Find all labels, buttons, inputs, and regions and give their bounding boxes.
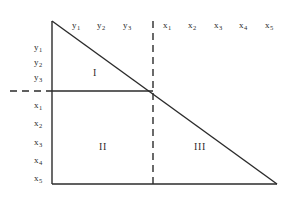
diagram-canvas: y1y2y3x1x2x3x4x5 y1y2y3x1x2x3x4x5 IIIIII	[0, 0, 294, 197]
axis-label-text: x5	[265, 20, 273, 30]
top-axis-label-x1: x1	[163, 21, 171, 30]
axis-label-text: x3	[214, 20, 222, 30]
top-axis-label-x2: x2	[188, 21, 196, 30]
triangle-figure	[0, 0, 294, 197]
region-label-iii: III	[194, 141, 206, 152]
axis-label-text: x4	[34, 155, 42, 165]
left-axis-label-x2: x2	[34, 119, 42, 128]
axis-label-subscript: 2	[193, 24, 196, 31]
axis-label-subscript: 3	[39, 141, 42, 148]
axis-label-subscript: 5	[39, 177, 42, 184]
axis-label-text: x5	[34, 173, 42, 183]
region-label-ii: II	[99, 141, 107, 152]
left-axis-label-x3: x3	[34, 138, 42, 147]
axis-label-text: x4	[239, 20, 247, 30]
left-axis-label-x1: x1	[34, 101, 42, 110]
axis-label-subscript: 1	[168, 24, 171, 31]
axis-label-subscript: 2	[39, 122, 42, 129]
axis-label-text: y2	[97, 20, 105, 30]
left-axis-label-y1: y1	[34, 43, 42, 52]
axis-label-subscript: 1	[77, 24, 80, 31]
left-axis-label-x5: x5	[34, 174, 42, 183]
left-axis-label-y2: y2	[34, 58, 42, 67]
axis-label-subscript: 3	[39, 76, 42, 83]
axis-label-subscript: 1	[39, 104, 42, 111]
axis-label-subscript: 4	[244, 24, 247, 31]
left-axis-label-x4: x4	[34, 156, 42, 165]
top-axis-label-x3: x3	[214, 21, 222, 30]
axis-label-subscript: 4	[39, 159, 42, 166]
top-axis-label-y3: y3	[123, 21, 131, 30]
axis-label-text: x2	[188, 20, 196, 30]
axis-label-text: x1	[34, 100, 42, 110]
axis-label-subscript: 3	[128, 24, 131, 31]
axis-label-text: x3	[34, 137, 42, 147]
axis-label-text: y3	[34, 72, 42, 82]
top-axis-label-y1: y1	[72, 21, 80, 30]
axis-label-text: x2	[34, 118, 42, 128]
top-axis-label-y2: y2	[97, 21, 105, 30]
axis-label-subscript: 1	[39, 46, 42, 53]
hypotenuse-line	[52, 21, 277, 184]
axis-label-text: y1	[72, 20, 80, 30]
top-axis-label-x4: x4	[239, 21, 247, 30]
axis-label-text: y1	[34, 42, 42, 52]
axis-label-subscript: 2	[102, 24, 105, 31]
axis-label-text: x1	[163, 20, 171, 30]
axis-label-text: y3	[123, 20, 131, 30]
region-label-i: I	[93, 67, 97, 78]
axis-label-text: y2	[34, 57, 42, 67]
left-axis-label-y3: y3	[34, 73, 42, 82]
axis-label-subscript: 2	[39, 61, 42, 68]
axis-label-subscript: 3	[219, 24, 222, 31]
top-axis-label-x5: x5	[265, 21, 273, 30]
axis-label-subscript: 5	[270, 24, 273, 31]
